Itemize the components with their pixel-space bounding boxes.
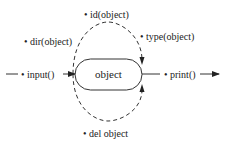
del-object-label: • del object [83,128,128,139]
output-label: • print() [164,69,196,81]
lower-arc-arrowhead-icon [140,84,145,92]
input-label: • input() [21,69,54,81]
object-lifecycle-diagram: object • input() • print() • dir(object)… [0,0,231,149]
type-object-label: • type(object) [140,31,194,43]
id-object-label: • id(object) [84,9,129,21]
dir-object-label: • dir(object) [24,36,72,48]
upper-arc-arrowhead-icon [140,57,145,65]
object-node-label: object [95,68,122,80]
